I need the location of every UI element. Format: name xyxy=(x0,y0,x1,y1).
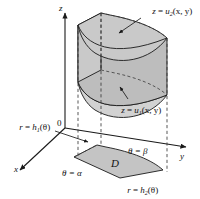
leader-inner-radius xyxy=(55,131,88,142)
polar-solid-diagram: z = u2(x, y) z = u1(x, y) r = h1(θ) r = … xyxy=(0,0,200,199)
label-region-d: D xyxy=(110,157,119,169)
diagram-canvas: z = u2(x, y) z = u1(x, y) r = h1(θ) r = … xyxy=(0,0,200,199)
x-axis xyxy=(20,128,65,170)
label-upper-surface-eq: = xyxy=(156,6,166,16)
label-inner-radius-eq: = xyxy=(23,122,33,132)
label-x-axis: x xyxy=(13,164,18,174)
label-outer-radius-args: (θ) xyxy=(148,185,158,195)
label-origin: 0 xyxy=(57,118,62,128)
y-axis xyxy=(65,128,186,147)
label-y-axis: y xyxy=(179,151,184,161)
label-outer-radius: r = h2(θ) xyxy=(116,185,165,196)
label-inner-radius: r = h1(θ) xyxy=(8,122,57,133)
label-lower-surface-args: (x, y) xyxy=(142,105,162,115)
label-upper-surface-args: (x, y) xyxy=(173,6,193,16)
label-upper-surface: z = u2(x, y) xyxy=(141,6,199,17)
label-theta-alpha: θ = α xyxy=(62,168,82,178)
label-outer-radius-eq: = xyxy=(131,185,141,195)
label-inner-radius-args: (θ) xyxy=(40,122,50,132)
label-z-axis: z xyxy=(58,3,63,13)
label-theta-beta: θ = β xyxy=(128,146,148,156)
label-lower-surface-eq: = xyxy=(125,105,135,115)
